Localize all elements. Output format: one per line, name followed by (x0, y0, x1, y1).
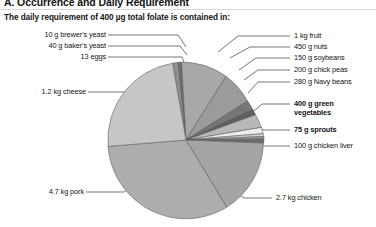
label-chicken-liver: 100 g chicken liver (294, 141, 353, 150)
leader-nuts (230, 47, 290, 58)
pie-slices (108, 62, 264, 219)
label-cheese: 1.2 kg cheese (6, 87, 86, 96)
leader-chickpeas (244, 70, 290, 80)
leader-eggs (108, 57, 184, 62)
label-navybeans: 280 g Navy beans (294, 77, 352, 86)
label-chicken: 2.7 kg chicken (276, 193, 322, 202)
leader-fruit (218, 36, 290, 52)
label-soybeans: 150 g soybeans (294, 53, 345, 62)
label-nuts: 450 g nuts (294, 42, 327, 51)
leader-soybeans (239, 58, 290, 70)
leader-brewers-yeast (108, 35, 186, 47)
label-brewers-yeast: 10 g brewer's yeast (6, 30, 106, 39)
leader-navybeans (248, 82, 290, 93)
label-pork: 4.7 kg pork (6, 187, 84, 196)
label-eggs: 13 eggs (6, 52, 106, 61)
leader-greenveg (254, 104, 290, 111)
label-green-vegetables: 400 g green vegetables (294, 99, 360, 117)
label-bakers-yeast: 40 g baker's yeast (6, 41, 106, 50)
label-fruit: 1 kg fruit (294, 31, 321, 40)
leader-bakers-yeast (108, 46, 187, 55)
label-sprouts: 75 g sprouts (294, 125, 337, 134)
figure-panel: A. Occurrence and Daily Requirement The … (0, 0, 376, 227)
slice-cheese (108, 63, 186, 146)
label-chickpeas: 200 g chick peas (294, 65, 348, 74)
